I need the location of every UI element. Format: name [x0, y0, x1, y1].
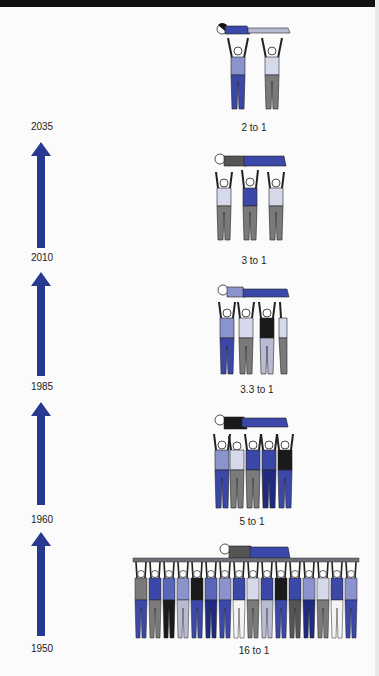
ratio-label-1950: 16 to 1	[214, 645, 294, 656]
ratio-label-1985: 3.3 to 1	[217, 384, 297, 395]
ratio-label-2010: 3 to 1	[214, 255, 294, 266]
year-label-2010: 2010	[22, 252, 62, 263]
year-label-1960: 1960	[22, 514, 62, 525]
year-label-1950: 1950	[22, 643, 62, 654]
scene-16-to-1-illustration	[130, 540, 364, 642]
arrow-up-icon	[30, 402, 52, 505]
arrow-up-icon	[30, 272, 52, 376]
year-label-1985: 1985	[22, 381, 62, 392]
ratio-label-1960: 5 to 1	[212, 516, 292, 527]
scene-5-to-1-illustration	[212, 412, 296, 512]
ratio-label-2035: 2 to 1	[214, 122, 294, 133]
scene-3-to-1-illustration	[212, 150, 292, 250]
year-label-2035: 2035	[22, 121, 62, 132]
right-border	[375, 0, 379, 676]
top-border	[0, 0, 379, 7]
scene-3.3-to-1-illustration	[215, 282, 291, 382]
scene-2-to-1-illustration	[210, 20, 296, 120]
arrow-up-icon	[30, 532, 52, 636]
arrow-up-icon	[30, 142, 52, 248]
